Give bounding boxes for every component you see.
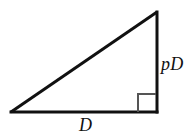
horizontal-leg-label: D bbox=[79, 116, 92, 134]
right-triangle-figure: pD D bbox=[0, 0, 194, 137]
vertical-leg-label: pD bbox=[161, 55, 183, 73]
